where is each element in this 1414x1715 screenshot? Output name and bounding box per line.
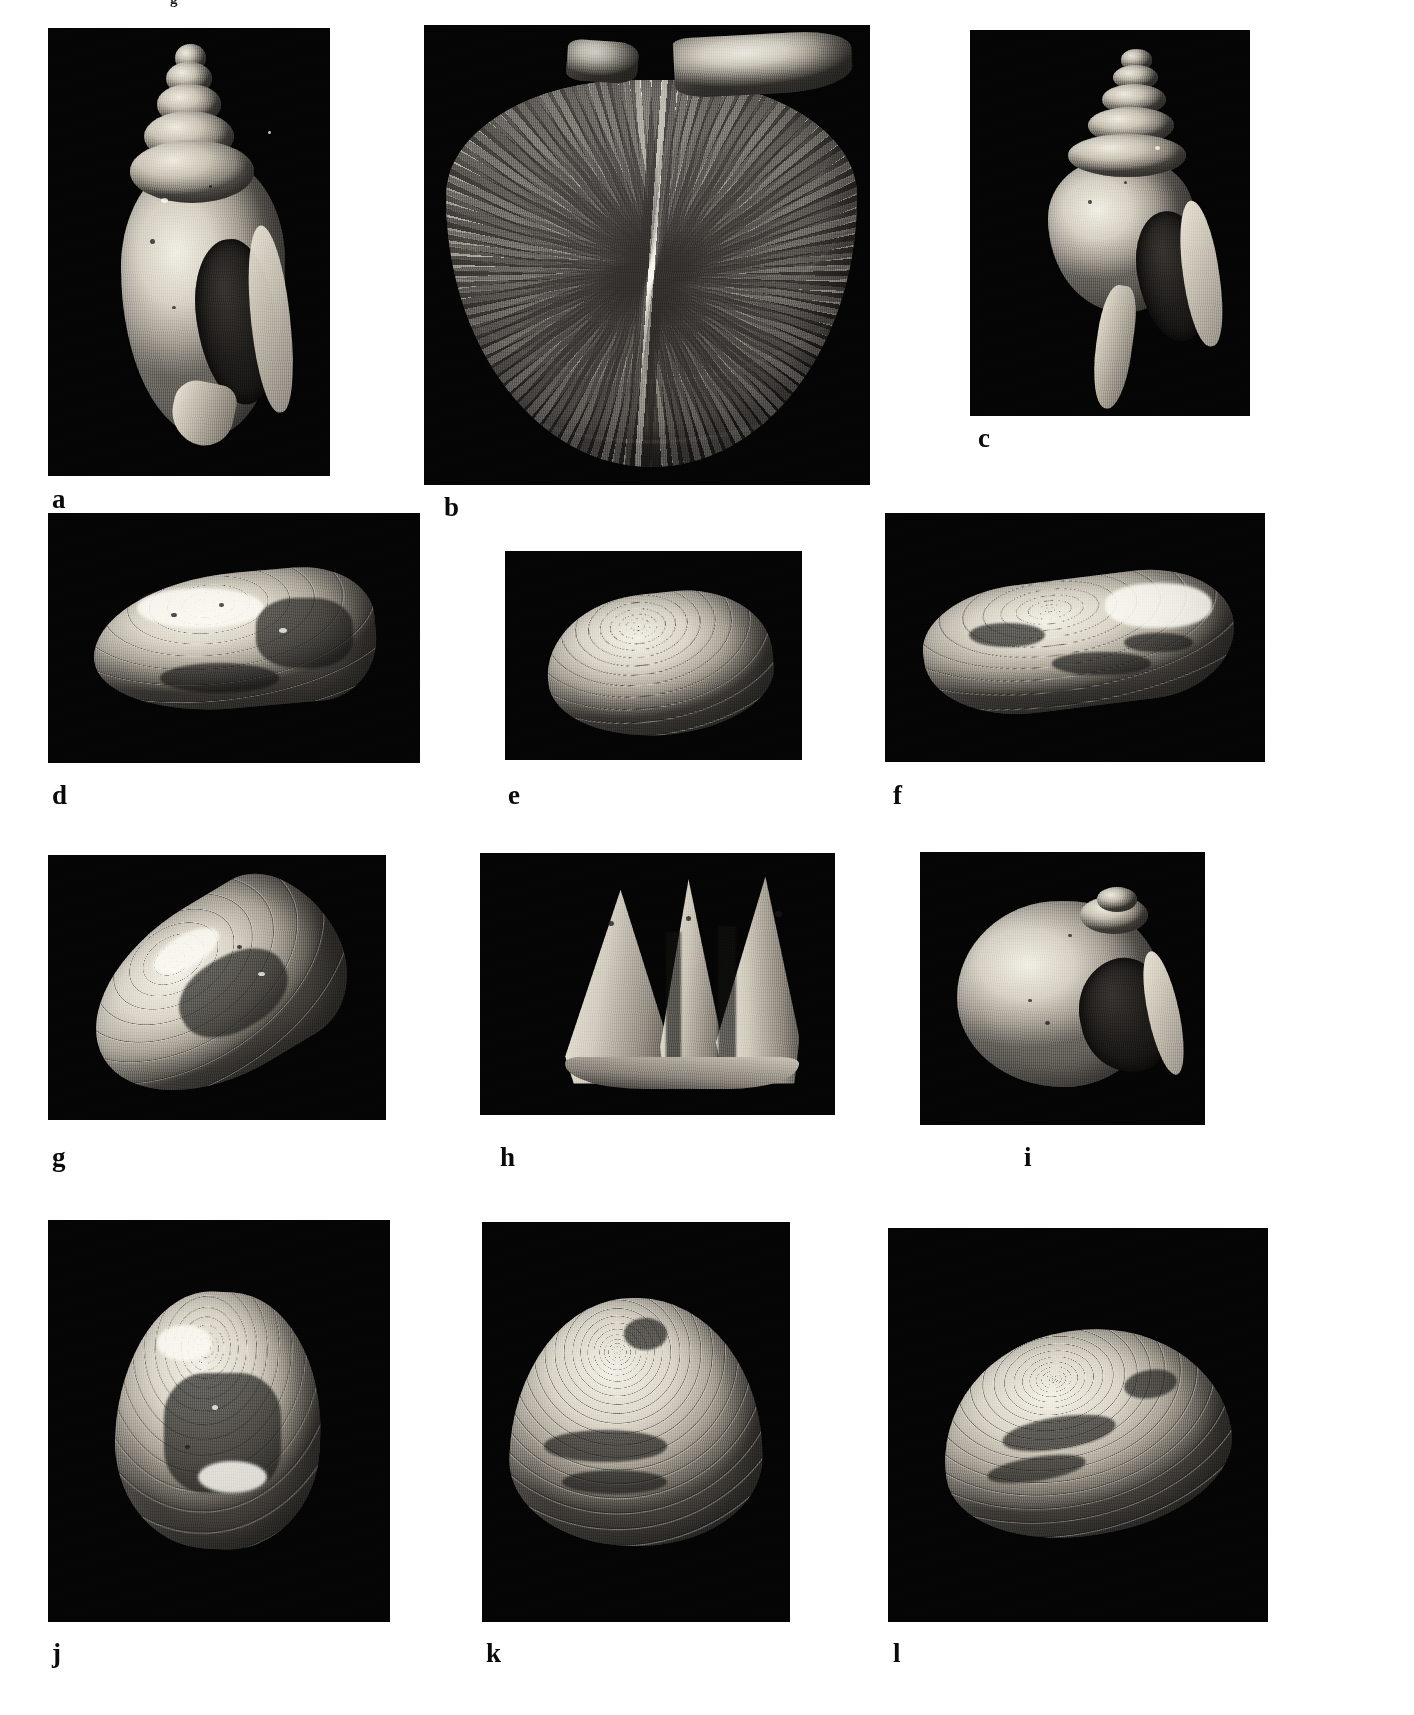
- figure-plate: g a: [0, 0, 1414, 1715]
- panel-h-photo: [480, 853, 835, 1115]
- panel-label-e: e: [508, 782, 520, 809]
- panel-label-a: a: [52, 486, 66, 513]
- panel-label-k: k: [486, 1640, 501, 1667]
- panel-label-f: f: [893, 782, 902, 809]
- panel-g-photo: [48, 855, 386, 1120]
- panel-b[interactable]: [424, 25, 870, 485]
- panel-j-photo: [48, 1220, 390, 1622]
- panel-label-g: g: [52, 1144, 66, 1171]
- panel-b-photo: [424, 25, 870, 485]
- cropped-caption-fragment: g: [170, 0, 178, 8]
- panel-label-i: i: [1024, 1144, 1032, 1171]
- panel-d[interactable]: [48, 513, 420, 763]
- panel-h[interactable]: [480, 853, 835, 1115]
- panel-k[interactable]: [482, 1222, 790, 1622]
- panel-label-d: d: [52, 782, 67, 809]
- panel-e-photo: [505, 551, 802, 760]
- panel-a[interactable]: [48, 28, 330, 476]
- panel-j[interactable]: [48, 1220, 390, 1622]
- panel-label-j: j: [52, 1640, 61, 1667]
- panel-e[interactable]: [505, 551, 802, 760]
- panel-label-c: c: [978, 425, 990, 452]
- panel-c-photo: [970, 30, 1250, 416]
- panel-g[interactable]: [48, 855, 386, 1120]
- panel-d-photo: [48, 513, 420, 763]
- panel-i-photo: [920, 852, 1205, 1125]
- panel-label-b: b: [444, 494, 459, 521]
- panel-k-photo: [482, 1222, 790, 1622]
- panel-i[interactable]: [920, 852, 1205, 1125]
- panel-a-photo: [48, 28, 330, 476]
- panel-l[interactable]: [888, 1228, 1268, 1622]
- panel-f-photo: [885, 513, 1265, 762]
- panel-l-photo: [888, 1228, 1268, 1622]
- panel-label-h: h: [500, 1144, 515, 1171]
- panel-c[interactable]: [970, 30, 1250, 416]
- panel-f[interactable]: [885, 513, 1265, 762]
- panel-label-l: l: [893, 1640, 901, 1667]
